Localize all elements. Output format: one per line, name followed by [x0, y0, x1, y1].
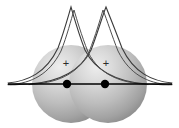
left-nucleus-dot [63, 80, 71, 88]
right-plus-sign-icon: + [103, 57, 109, 69]
left-plus-sign-icon: + [63, 57, 69, 69]
right-nucleus-dot [101, 80, 109, 88]
figure-canvas: + + [0, 0, 179, 128]
orbital-overlap-figure: + + [0, 0, 179, 128]
